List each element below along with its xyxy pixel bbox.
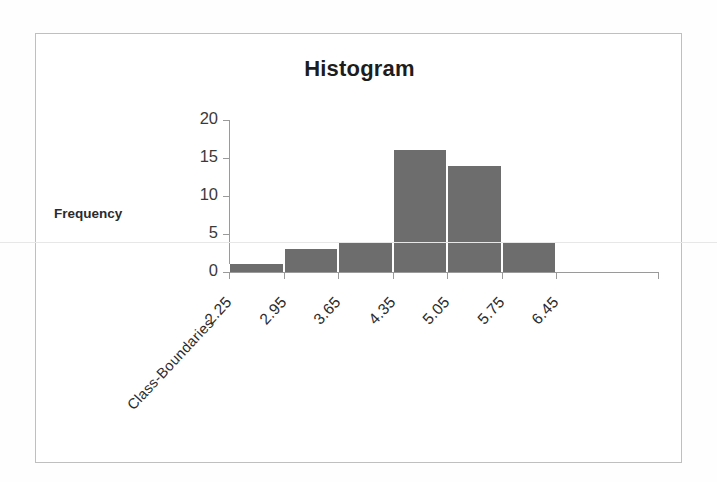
x-axis-tick-label: 6.45 <box>528 293 563 328</box>
x-tick-mark <box>338 272 339 279</box>
x-tick-mark <box>393 272 394 279</box>
y-tick-label: 5 <box>209 223 218 242</box>
x-axis-tick-label: 5.05 <box>419 293 454 328</box>
x-axis-tick-label: 3.65 <box>310 293 345 328</box>
x-tick-mark <box>556 272 557 279</box>
histogram-bar <box>393 150 448 272</box>
histogram-bars <box>229 114 659 272</box>
x-tick-mark-end <box>658 272 659 279</box>
chart-frame: Histogram Frequency 05101520 Class-Bound… <box>35 33 682 463</box>
x-axis-title: Class-Boundaries <box>124 315 217 413</box>
x-axis-tick-label: 4.35 <box>365 293 400 328</box>
plot-area: 05101520 <box>229 114 659 272</box>
histogram-bar <box>338 242 393 272</box>
y-tick-label: 0 <box>209 261 218 280</box>
x-tick-mark <box>447 272 448 279</box>
chart-title: Histogram <box>36 56 683 82</box>
scanned-page: Histogram Frequency 05101520 Class-Bound… <box>0 0 717 482</box>
histogram-bar <box>229 264 284 272</box>
histogram-bar <box>502 242 557 272</box>
y-axis-title: Frequency <box>54 206 122 221</box>
histogram-bar <box>447 166 502 272</box>
y-tick-label: 10 <box>200 185 218 204</box>
scan-artifact-line <box>0 242 717 243</box>
x-tick-mark <box>284 272 285 279</box>
x-axis-tick-label: 5.75 <box>474 293 509 328</box>
y-tick-label: 15 <box>200 147 218 166</box>
y-tick-label: 20 <box>200 109 218 128</box>
x-tick-mark <box>229 272 230 279</box>
x-axis-line <box>229 272 659 273</box>
x-tick-mark <box>502 272 503 279</box>
histogram-bar <box>284 249 339 272</box>
x-axis-labels: Class-Boundaries2.252.953.654.355.055.75… <box>229 280 699 460</box>
x-axis-tick-label: 2.95 <box>256 293 291 328</box>
